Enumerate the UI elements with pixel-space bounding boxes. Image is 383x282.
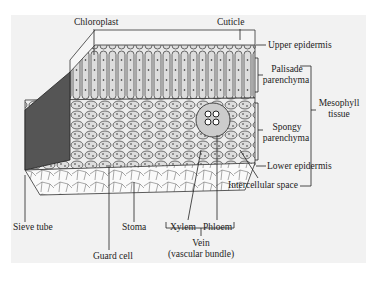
label-lower-epidermis: Lower epidermis: [267, 161, 332, 171]
label-cuticle: Cuticle: [217, 17, 244, 27]
label-phloem: Phloem: [203, 222, 232, 232]
label-upper-epidermis: Upper epidermis: [268, 40, 332, 50]
label-xylem: Xylem: [170, 222, 196, 232]
label-palisade-parenchyma: parenchyma: [260, 75, 312, 85]
label-mesophyll-tissue: tissue: [316, 109, 362, 119]
label-sieve-tube: Sieve tube: [13, 222, 53, 232]
label-intercellular-space: Intercellular space: [228, 180, 298, 190]
label-guard-cell: Guard cell: [93, 251, 133, 261]
label-spongy-parenchyma: parenchyma: [260, 133, 312, 143]
label-chloroplast: Chloroplast: [74, 17, 118, 27]
label-vein: Vein: [160, 238, 242, 248]
label-palisade: Palisade: [262, 64, 312, 74]
label-spongy: Spongy: [262, 122, 312, 132]
label-vascular-bundle: (vascular bundle): [160, 249, 242, 259]
label-stoma: Stoma: [122, 222, 146, 232]
label-mesophyll: Mesophyll: [316, 98, 362, 108]
